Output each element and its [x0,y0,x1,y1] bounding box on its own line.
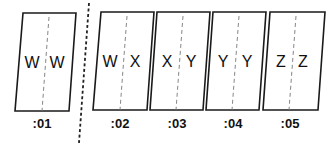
dashed-divider [79,3,89,143]
frame-label: :02 [111,116,130,131]
frame-01: W W :01 [15,13,76,131]
left-field-letter: X [162,53,173,70]
frame-03: X Y :03 [150,12,210,131]
frame-label: :05 [281,116,300,131]
right-field-letter: X [130,53,141,70]
frame-05: Z Z :05 [263,12,325,131]
film-frames-diagram: W W :01 W X :02 X Y :03 Y Y :04 Z Z :05 [0,0,336,147]
left-field-letter: W [102,53,118,70]
frame-label: :04 [224,116,244,131]
frame-label: :01 [33,116,52,131]
left-field-letter: Z [276,53,286,70]
left-field-letter: W [24,54,40,71]
left-field-letter: Y [218,53,229,70]
right-field-letter: Z [298,53,308,70]
right-field-letter: W [49,54,65,71]
right-field-letter: Y [186,53,197,70]
frame-05-outline [263,12,325,110]
frame-02: W X :02 [93,12,154,131]
frame-04: Y Y :04 [206,12,266,131]
right-field-letter: Y [242,53,253,70]
frame-label: :03 [168,116,187,131]
